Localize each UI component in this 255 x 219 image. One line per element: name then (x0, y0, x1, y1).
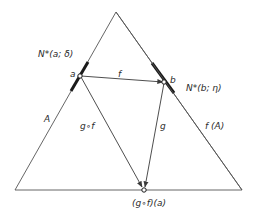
point-a (78, 74, 82, 78)
label-arrow-g-of: g∘f (80, 122, 95, 131)
image-boundary-line (116, 12, 242, 190)
label-region-fA: f (A) (205, 122, 224, 131)
diagram-canvas (0, 0, 255, 219)
label-point-a: a (70, 70, 76, 79)
label-region-A: A (44, 115, 50, 124)
point-gfa (142, 188, 146, 192)
label-point-gfa: (g∘f)(a) (132, 199, 166, 208)
label-arrow-g: g (160, 122, 166, 131)
arrow-g-of (81, 77, 142, 187)
label-arrow-f: f (118, 70, 121, 79)
arrow-g (145, 83, 164, 187)
label-neighborhood-a: N*(a; δ) (38, 50, 73, 59)
triangle-left-side (15, 12, 116, 190)
label-point-b: b (170, 76, 176, 85)
point-b (162, 80, 166, 84)
label-neighborhood-b: N*(b; η) (186, 84, 222, 93)
arrow-f (81, 76, 163, 82)
